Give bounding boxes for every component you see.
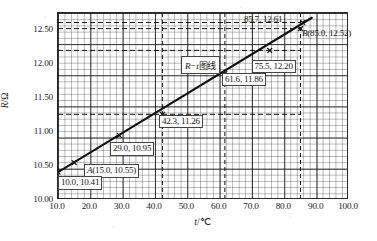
x-tick-30: 30.0 bbox=[114, 201, 129, 211]
curve-symbol: R−t bbox=[185, 61, 199, 71]
chart-figure: R/Ω 12.50 12.00 11.50 11.00 10.50 10.00 … bbox=[0, 0, 377, 241]
y-tick-12-50: 12.50 bbox=[5, 24, 53, 34]
callout-29-0-10-95: 29.0, 10.95 bbox=[110, 142, 154, 156]
y-tick-11-00: 11.00 bbox=[5, 126, 53, 136]
callout-85-7-12-61: 85.7, 12.61 bbox=[242, 14, 284, 26]
x-tick-80: 80.0 bbox=[276, 201, 291, 211]
callout-10-0-10-41: 10.0, 10.41 bbox=[58, 176, 102, 190]
callout-point-b: B(85.0, 12.52) bbox=[300, 28, 353, 40]
x-tick-20: 20.0 bbox=[82, 201, 97, 211]
y-tick-12-00: 12.00 bbox=[5, 58, 53, 68]
x-tick-10: 10.0 bbox=[49, 201, 64, 211]
x-tick-100: 100.0 bbox=[338, 201, 358, 211]
point-a-coords: (15.0, 10.55) bbox=[92, 165, 136, 175]
point-b-coords: (85.0, 12.52) bbox=[307, 28, 351, 38]
y-tick-10-00: 10.00 bbox=[5, 194, 53, 204]
curve-series-label: R−t图线 bbox=[181, 56, 220, 74]
x-tick-90: 90.0 bbox=[308, 201, 323, 211]
x-axis-label: t/℃ bbox=[0, 216, 377, 227]
callout-75-5-12-20: 75.5, 12.20 bbox=[252, 60, 296, 74]
y-tick-11-50: 11.50 bbox=[5, 92, 53, 102]
y-tick-10-50: 10.50 bbox=[5, 160, 53, 170]
x-tick-50: 50.0 bbox=[179, 201, 194, 211]
x-tick-40: 40.0 bbox=[146, 201, 161, 211]
x-tick-70: 70.0 bbox=[243, 201, 258, 211]
x-tick-60: 60.0 bbox=[211, 201, 226, 211]
curve-word: 图线 bbox=[199, 61, 217, 71]
y-axis-symbol: R bbox=[0, 102, 10, 108]
callout-42-3-11-26: 42.3, 11.26 bbox=[159, 115, 203, 129]
callout-61-6-11-86: 61.6, 11.86 bbox=[222, 73, 266, 87]
series-r-t-line bbox=[58, 18, 312, 172]
x-axis-unit: /℃ bbox=[197, 216, 211, 227]
